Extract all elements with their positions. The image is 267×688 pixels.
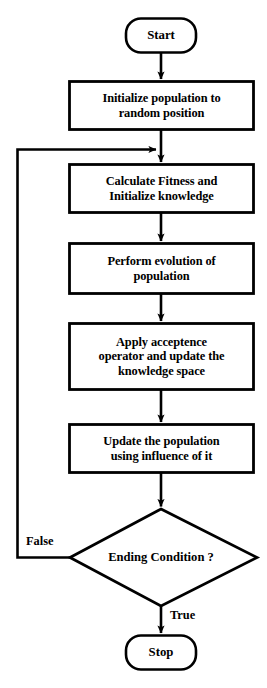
node-accept-shape: [70, 324, 254, 390]
flowchart-graphics: [0, 0, 267, 688]
node-start-shape: [126, 19, 196, 53]
node-update-shape: [70, 425, 254, 473]
node-fitness-shape: [70, 165, 254, 213]
node-ending-shape: [70, 509, 257, 606]
node-evolve-shape: [70, 244, 254, 294]
flowchart-canvas: Start Initialize population to random po…: [0, 0, 267, 688]
node-init-shape: [70, 82, 254, 130]
node-stop-shape: [126, 636, 196, 670]
